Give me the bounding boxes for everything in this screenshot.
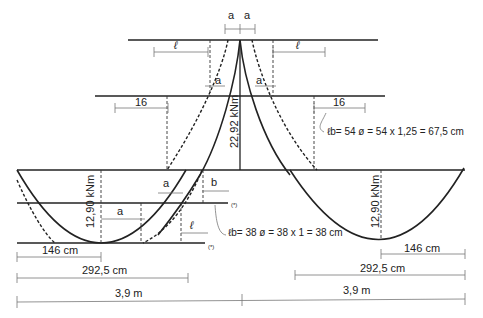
dim-right-146: 146 cm [404, 243, 440, 254]
dim-16-left: 16 [135, 97, 147, 108]
note-marker-1: (*) [231, 202, 237, 208]
dim-right-span: 3,9 m [343, 285, 371, 296]
label-a-l-low-1: a [163, 178, 169, 189]
shifted-parabola-left [17, 180, 55, 243]
label-a-l-left: a [228, 10, 234, 21]
label-a-l-mid-right: a [256, 75, 262, 86]
dim-left-292: 292,5 cm [82, 265, 127, 276]
shifted-curve-right-top [252, 40, 317, 170]
label-b-l: b [211, 177, 217, 188]
shifted-curve-left-top [167, 40, 228, 170]
label-a-l-right: a [244, 10, 250, 21]
dim-left-span: 3,9 m [115, 288, 143, 299]
dim-left-146: 146 cm [42, 245, 78, 256]
dim-16-right: 16 [333, 97, 345, 108]
dim-right-292: 292,5 cm [360, 263, 405, 274]
sagging-moment-right-label: 12,90 kNm [370, 175, 381, 228]
hogging-curve-right [240, 40, 290, 175]
formula-top: ℓb= 54 ø = 54 x 1,25 = 67,5 cm [327, 127, 464, 137]
sagging-moment-left-label: 12,90 kNm [85, 175, 96, 228]
label-a-l-mid-left: a [215, 75, 221, 86]
label-l-b-low: ℓ [190, 220, 194, 231]
shifted-curve-left-low [143, 170, 202, 243]
label-l-b-top-left: ℓ [174, 40, 178, 51]
note-marker-2: (*) [208, 244, 214, 250]
hogging-moment-label: 22,92 kNm [229, 95, 240, 148]
formula-bottom: ℓb= 38 ø = 38 x 1 = 38 cm [228, 228, 343, 238]
label-l-b-top-right: ℓ [296, 40, 300, 51]
moment-diagram [0, 0, 483, 318]
label-a-l-low-2: a [117, 206, 123, 217]
